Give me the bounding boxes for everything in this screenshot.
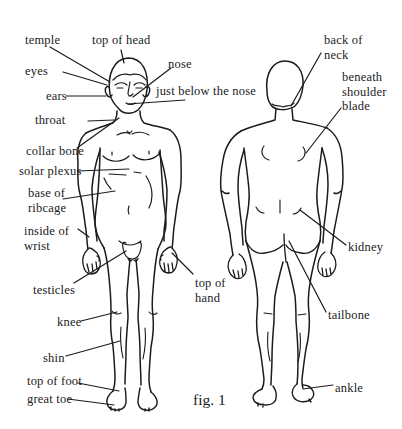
- label-kidney: kidney: [348, 240, 383, 255]
- front-right-hand: [160, 247, 178, 273]
- front-clavicles: [117, 131, 149, 135]
- front-neck-shoulders: [86, 111, 170, 133]
- back-knee-calf-marks: [264, 313, 306, 362]
- front-genitals: [119, 241, 141, 261]
- front-right-leg: [136, 249, 158, 392]
- back-lower-back-marks: [256, 200, 301, 214]
- book-page: temple top of head eyes nose ears just b…: [0, 0, 402, 429]
- leader-just-below-the-nose: [128, 100, 185, 104]
- leader-back-of-neck: [291, 53, 321, 106]
- front-figure: [78, 58, 181, 411]
- label-knee: knee: [57, 315, 81, 330]
- figure-caption: fig. 1: [193, 391, 226, 409]
- leader-beneath-shoulder-blade: [306, 108, 341, 153]
- leader-top-of-foot: [78, 383, 119, 391]
- back-left-hand: [228, 254, 246, 279]
- front-head-outline: [105, 58, 149, 113]
- back-buttocks: [246, 234, 320, 262]
- back-right-hand: [318, 252, 336, 277]
- leader-eyes: [63, 72, 107, 85]
- front-left-leg: [104, 248, 130, 391]
- back-head-outline: [267, 61, 303, 110]
- label-top-of-foot: top of foot: [27, 374, 82, 389]
- front-torso-sides: [95, 148, 166, 249]
- label-ears: ears: [46, 89, 67, 104]
- label-inside-of-wrist: inside of wrist: [24, 224, 72, 253]
- back-shoulder-blades: [262, 146, 305, 161]
- leader-shin: [66, 341, 120, 356]
- label-temple: temple: [25, 33, 60, 48]
- back-neck-shoulders: [241, 109, 327, 131]
- back-torso-sides: [244, 148, 322, 241]
- front-left-hand: [83, 248, 101, 274]
- label-great-toe: great toe: [27, 392, 72, 407]
- label-back-of-neck: back of neck: [324, 33, 370, 62]
- back-left-foot: [253, 386, 276, 407]
- leader-inside-of-wrist: [78, 229, 89, 237]
- leader-solar-plexus: [78, 169, 129, 171]
- label-just-below-the-nose: just below the nose: [156, 84, 256, 99]
- leader-top-of-hand: [172, 253, 193, 274]
- leader-top-of-head: [121, 50, 124, 63]
- front-right-foot: [138, 388, 157, 411]
- leader-testicles: [74, 251, 126, 283]
- label-tailbone: tailbone: [328, 308, 370, 323]
- label-eyes: eyes: [25, 64, 48, 79]
- label-beneath-shoulder-blade: beneath shoulder blade: [342, 70, 398, 114]
- label-nose: nose: [168, 57, 192, 72]
- label-base-of-ribcage: base of ribcage: [28, 186, 80, 215]
- back-left-arm: [221, 131, 244, 255]
- label-top-of-hand: top of hand: [195, 276, 237, 305]
- label-solar-plexus: solar plexus: [19, 164, 81, 179]
- back-left-leg: [246, 241, 283, 389]
- label-testicles: testicles: [33, 283, 75, 298]
- label-ankle: ankle: [335, 381, 363, 396]
- front-face-features: [113, 74, 146, 104]
- label-shin: shin: [43, 351, 65, 366]
- leader-tailbone: [289, 241, 326, 312]
- label-top-of-head: top of head: [92, 33, 150, 48]
- leader-throat: [88, 120, 114, 121]
- front-abdomen: [104, 172, 152, 214]
- leader-lines: [50, 47, 346, 405]
- front-chest: [103, 151, 159, 161]
- front-left-foot: [107, 388, 126, 411]
- back-figure: [221, 61, 344, 407]
- label-collar-bone: collar bone: [26, 144, 84, 159]
- label-throat: throat: [35, 113, 65, 128]
